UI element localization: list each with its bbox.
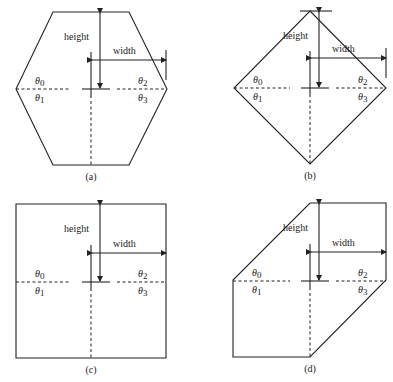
theta-1-label: θ1 xyxy=(35,92,44,105)
theta-1-label: θ1 xyxy=(252,284,261,297)
width-label: width xyxy=(332,43,355,54)
theta-2-label: θ2 xyxy=(138,268,147,281)
height-label: height xyxy=(283,222,308,233)
theta-0-label: θ0 xyxy=(35,268,45,281)
panel-caption: (d) xyxy=(304,363,316,375)
theta-3-label: θ3 xyxy=(138,92,148,105)
theta-3-label: θ3 xyxy=(138,285,148,298)
panel-d: heightwidthθ0θ1θ2θ3(d) xyxy=(233,203,386,375)
theta-1-label: θ1 xyxy=(35,285,44,298)
theta-2-label: θ2 xyxy=(138,75,147,88)
panel-b: heightwidthθ0θ1θ2θ3(b) xyxy=(234,11,386,182)
theta-3-label: θ3 xyxy=(358,91,368,104)
theta-3-label: θ3 xyxy=(358,284,368,297)
height-label: height xyxy=(283,30,308,41)
theta-0-label: θ0 xyxy=(252,267,262,280)
height-label: height xyxy=(64,223,89,234)
figure-svg: heightwidthθ0θ1θ2θ3(a)heightwidthθ0θ1θ2θ… xyxy=(0,0,393,382)
panel-caption: (a) xyxy=(85,171,96,183)
width-label: width xyxy=(113,238,136,249)
theta-1-label: θ1 xyxy=(253,91,262,104)
height-label: height xyxy=(64,31,89,42)
theta-0-label: θ0 xyxy=(35,75,45,88)
width-label: width xyxy=(332,237,355,248)
panel-c: heightwidthθ0θ1θ2θ3(c) xyxy=(16,204,166,376)
figure: heightwidthθ0θ1θ2θ3(a)heightwidthθ0θ1θ2θ… xyxy=(0,0,393,382)
theta-2-label: θ2 xyxy=(358,74,367,87)
theta-0-label: θ0 xyxy=(253,74,263,87)
panel-a: heightwidthθ0θ1θ2θ3(a) xyxy=(16,12,167,183)
theta-2-label: θ2 xyxy=(358,267,367,280)
width-label: width xyxy=(113,45,136,56)
panel-caption: (c) xyxy=(85,364,96,376)
panel-caption: (b) xyxy=(304,170,316,182)
